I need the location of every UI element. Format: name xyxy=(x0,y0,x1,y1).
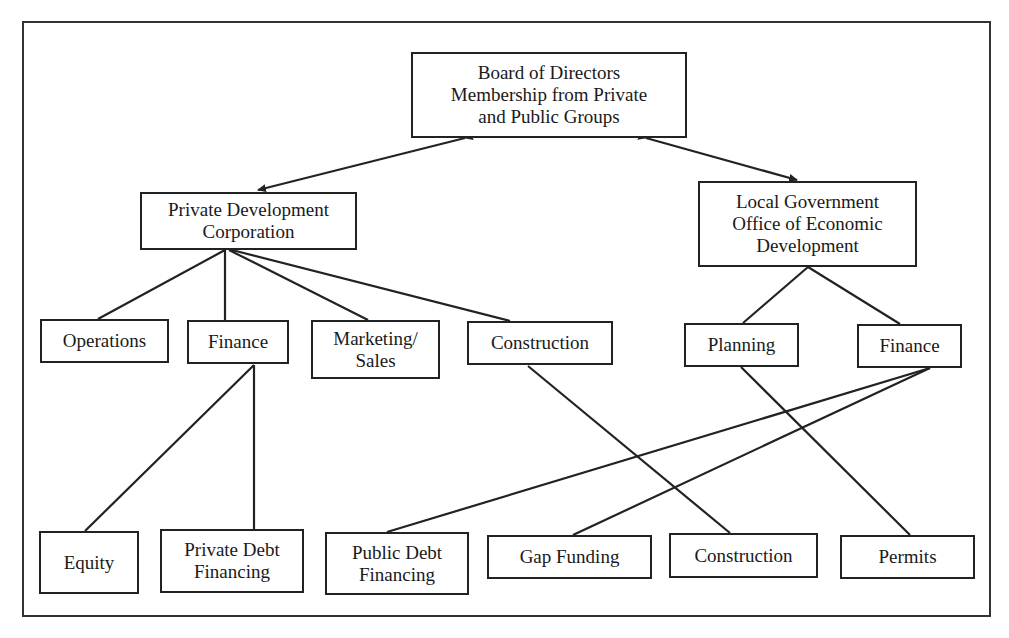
node-permits: Permits xyxy=(840,535,975,579)
node-planning: Planning xyxy=(684,323,799,367)
edge-pdc-marketing xyxy=(229,250,368,320)
node-label: Gap Funding xyxy=(520,546,620,568)
node-label: Construction xyxy=(694,545,792,567)
node-marketing-sales: Marketing/ Sales xyxy=(311,320,440,379)
node-local-government: Local Government Office of Economic Deve… xyxy=(698,181,917,267)
node-label: Construction xyxy=(491,332,589,354)
node-label: Finance xyxy=(208,331,268,353)
node-finance-public: Finance xyxy=(857,324,962,368)
node-finance-private: Finance xyxy=(187,320,289,364)
node-operations: Operations xyxy=(40,319,169,363)
node-label: Board of Directors Membership from Priva… xyxy=(451,62,647,128)
edge-planning-permits xyxy=(741,367,910,535)
edge-finance-equity xyxy=(85,365,254,531)
node-construction-bottom: Construction xyxy=(669,533,818,578)
node-private-debt-financing: Private Debt Financing xyxy=(160,529,304,593)
edge-board-pdc xyxy=(258,138,465,190)
node-equity: Equity xyxy=(39,531,139,594)
node-label: Planning xyxy=(708,334,776,356)
edge-localgov-finance xyxy=(808,267,900,324)
node-public-debt-financing: Public Debt Financing xyxy=(325,532,469,595)
node-label: Public Debt Financing xyxy=(352,542,442,586)
node-label: Local Government Office of Economic Deve… xyxy=(732,191,883,257)
node-label: Operations xyxy=(63,330,146,352)
node-label: Equity xyxy=(64,552,115,574)
node-construction-private: Construction xyxy=(467,321,613,365)
node-private-development-corporation: Private Development Corporation xyxy=(140,192,357,250)
node-label: Finance xyxy=(879,335,939,357)
edge-pdc-operations xyxy=(98,250,225,319)
node-label: Private Development Corporation xyxy=(168,199,329,243)
node-label: Marketing/ Sales xyxy=(333,328,417,372)
node-label: Permits xyxy=(878,546,936,568)
edge-finance-pubdebt xyxy=(387,368,930,532)
node-gap-funding: Gap Funding xyxy=(487,535,652,579)
edge-pdc-construction xyxy=(232,250,510,321)
edge-localgov-planning xyxy=(743,267,808,323)
node-label: Private Debt Financing xyxy=(184,539,280,583)
edge-board-localgov xyxy=(646,138,797,180)
edge-finance-gap xyxy=(573,368,930,535)
node-board-of-directors: Board of Directors Membership from Priva… xyxy=(411,52,687,138)
